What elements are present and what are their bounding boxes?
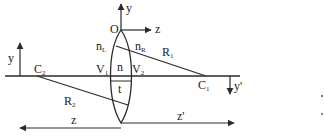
radius-r2-label: R2 — [64, 94, 76, 109]
radius-r1-line — [116, 46, 206, 76]
upper-y-label: y — [126, 1, 132, 15]
radius-r1-label: R1 — [162, 45, 174, 60]
edge-mark — [321, 95, 323, 97]
center-c2-label: C2 — [34, 62, 46, 77]
vertex-v2-label: V2 — [132, 62, 145, 77]
left-y-label: y — [8, 51, 14, 65]
thick-lens-diagram: O y z y y' nL nR n t V1 V2 C2 C1 R1 R2 z… — [0, 0, 324, 138]
origin-label: O — [110, 22, 119, 36]
edge-mark — [321, 113, 323, 115]
left-medium-index-label: nL — [96, 39, 106, 54]
image-distance-label: z' — [177, 109, 185, 123]
center-c1-label: C1 — [198, 78, 210, 93]
upper-z-label: z — [155, 22, 160, 36]
object-distance-label: z — [71, 113, 76, 127]
right-y-prime-label: y' — [234, 79, 242, 93]
thickness-label: t — [118, 82, 122, 96]
radius-r2-line — [37, 76, 128, 105]
right-medium-index-label: nR — [135, 39, 146, 54]
vertex-v1-label: V1 — [96, 62, 109, 77]
lens-index-label: n — [117, 60, 123, 74]
